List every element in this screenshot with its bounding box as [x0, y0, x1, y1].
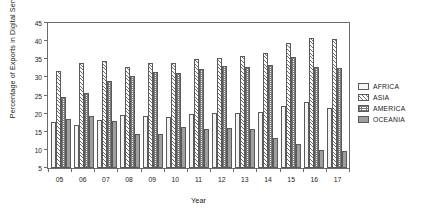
legend-label: AMERICA [373, 105, 405, 112]
bar-oceania-10 [181, 127, 186, 168]
bar-group [95, 23, 118, 168]
bar-oceania-08 [135, 134, 140, 168]
x-axis-tick-label: 15 [280, 176, 303, 188]
y-axis-tick-label: 40 [35, 38, 42, 45]
bar-oceania-13 [250, 129, 255, 169]
y-axis-tick-label: 35 [35, 56, 42, 63]
bar-oceania-14 [273, 138, 278, 168]
bar-oceania-05 [66, 119, 71, 168]
x-axis-tick [349, 168, 350, 172]
y-axis-tick-label: 45 [35, 20, 42, 27]
x-axis-tick [187, 168, 188, 172]
legend-swatch-africa [358, 83, 369, 90]
x-axis-tick-label: 10 [164, 176, 187, 188]
legend-item-oceania[interactable]: OCEANIA [358, 115, 436, 125]
x-axis-tick [141, 168, 142, 172]
plot-area: 51015202530354045 [47, 22, 350, 169]
legend-label: ASIA [373, 94, 389, 101]
bar-group [141, 23, 164, 168]
x-axis-tick-label: 12 [210, 176, 233, 188]
x-axis-tick [117, 168, 118, 172]
x-axis-tick-label: 11 [187, 176, 210, 188]
x-axis-tick-label: 07 [94, 176, 117, 188]
x-axis-tick-labels: 05060708091011121314151617 [47, 176, 350, 188]
bar-group [279, 23, 302, 168]
bar-group [210, 23, 233, 168]
legend-item-america[interactable]: AMERICA [358, 104, 436, 114]
legend-item-asia[interactable]: ASIA [358, 93, 436, 103]
x-axis-tick-label: 05 [48, 176, 71, 188]
x-axis-tick-label: 13 [233, 176, 256, 188]
bar-groups [48, 23, 349, 168]
x-axis-tick [71, 168, 72, 172]
chart-figure: Percentage of Exports in Digital Service… [0, 0, 440, 213]
y-axis-tick-label: 30 [35, 74, 42, 81]
x-axis-tick [280, 168, 281, 172]
bar-oceania-11 [204, 129, 209, 168]
y-axis-tick-label: 20 [35, 110, 42, 117]
bar-group [118, 23, 141, 168]
bar-oceania-16 [319, 150, 324, 168]
legend-swatch-america [358, 105, 369, 112]
x-axis-title: Year [47, 196, 350, 205]
legend-label: OCEANIA [373, 116, 405, 123]
x-axis-tick [210, 168, 211, 172]
y-axis-tick-label: 15 [35, 128, 42, 135]
x-axis-tick [48, 168, 49, 172]
legend-swatch-oceania [358, 116, 369, 123]
bar-group [233, 23, 256, 168]
x-axis-tick-label: 17 [326, 176, 349, 188]
bar-group [302, 23, 325, 168]
legend-label: AFRICA [373, 83, 399, 90]
x-axis-tick-label: 09 [141, 176, 164, 188]
legend-item-africa[interactable]: AFRICA [358, 82, 436, 92]
x-axis-tick [94, 168, 95, 172]
x-axis-tick-label: 06 [71, 176, 94, 188]
legend: AFRICAASIAAMERICAOCEANIA [358, 82, 436, 126]
bar-oceania-17 [342, 151, 347, 168]
bar-group [49, 23, 72, 168]
y-axis-title-container: Percentage of Exports in Digital Service… [2, 18, 16, 186]
y-axis-tick-label: 25 [35, 92, 42, 99]
bar-oceania-07 [112, 121, 117, 168]
x-axis-tick [164, 168, 165, 172]
x-axis-tick [256, 168, 257, 172]
x-axis-tick-label: 16 [303, 176, 326, 188]
bar-group [72, 23, 95, 168]
bar-oceania-09 [158, 134, 163, 168]
x-axis-tick [303, 168, 304, 172]
x-axis-tick [233, 168, 234, 172]
legend-swatch-asia [358, 94, 369, 101]
x-axis-tick-label: 14 [256, 176, 279, 188]
y-axis-title: Percentage of Exports in Digital Service… [8, 0, 22, 134]
bar-oceania-12 [227, 128, 232, 168]
bar-oceania-06 [89, 116, 94, 168]
y-axis-tick-label: 5 [38, 165, 42, 172]
bar-group [256, 23, 279, 168]
x-axis-tick [326, 168, 327, 172]
y-axis-tick-label: 10 [35, 146, 42, 153]
bar-group [325, 23, 348, 168]
x-axis-tick-label: 08 [117, 176, 140, 188]
bar-oceania-15 [296, 144, 301, 168]
bar-group [187, 23, 210, 168]
bar-group [164, 23, 187, 168]
